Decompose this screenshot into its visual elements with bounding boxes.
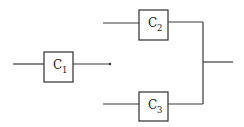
c3-subscript: 3 <box>157 105 162 115</box>
c3-label: C <box>148 98 157 112</box>
c1-output-terminal-dot <box>109 63 111 65</box>
c1-subscript: 1 <box>62 65 67 75</box>
component-c3: C 3 <box>103 92 203 121</box>
component-c2: C 2 <box>103 10 203 40</box>
parallel-junction <box>203 22 233 104</box>
component-c1: C 1 <box>13 52 111 82</box>
c2-label: C <box>148 16 157 30</box>
c1-label: C <box>53 58 62 72</box>
block-diagram: C 1 C 2 C 3 <box>0 0 244 127</box>
c2-subscript: 2 <box>157 23 162 33</box>
